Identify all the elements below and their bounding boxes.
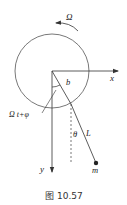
phase-angle-arc — [52, 85, 60, 87]
pendulum-on-rotating-disk-diagram: Ω x y b Ω t+φ θ L m 图 10.57 — [0, 0, 127, 205]
length-label: L — [85, 128, 91, 138]
rotation-arrow-icon — [56, 23, 78, 31]
x-axis-label: x — [109, 73, 114, 83]
phase-angle-label: Ω t+φ — [9, 110, 29, 119]
radius-label: b — [66, 77, 70, 87]
theta-label: θ — [73, 129, 77, 139]
mass-label: m — [92, 165, 98, 175]
y-axis-label: y — [39, 164, 44, 174]
phase-leader-line — [42, 90, 56, 113]
radius-line — [52, 71, 71, 104]
omega-label: Ω — [66, 12, 73, 22]
figure-caption: 图 10.57 — [45, 191, 83, 201]
